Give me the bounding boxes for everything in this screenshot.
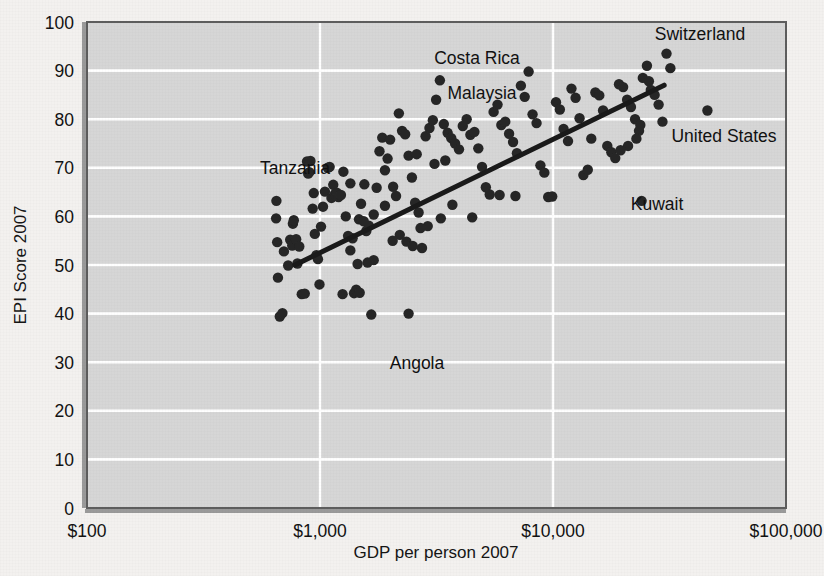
chart-page: 0102030405060708090100 $100$1,000$10,000…: [0, 0, 824, 576]
data-point: [440, 155, 450, 165]
x-axis-tick-labels: $100$1,000$10,000$100,000: [68, 521, 823, 541]
x-axis-title: GDP per person 2007: [353, 543, 518, 562]
data-point: [345, 245, 355, 255]
data-point: [566, 83, 576, 93]
data-point: [485, 189, 495, 199]
y-tick-label-20: 20: [55, 401, 75, 421]
annotation-malaysia: Malaysia: [447, 83, 516, 103]
data-point: [341, 211, 351, 221]
data-point: [531, 118, 541, 128]
data-point: [366, 309, 376, 319]
data-point: [387, 236, 397, 246]
data-point: [635, 120, 645, 130]
data-point: [702, 105, 712, 115]
data-point: [318, 201, 328, 211]
data-point: [539, 167, 549, 177]
data-point: [283, 260, 293, 270]
data-point: [338, 166, 348, 176]
data-point: [631, 133, 641, 143]
data-point: [665, 63, 675, 73]
y-tick-label-70: 70: [55, 158, 75, 178]
data-point: [469, 127, 479, 137]
data-point: [516, 80, 526, 90]
data-point: [362, 257, 372, 267]
data-point: [642, 61, 652, 71]
data-point: [371, 183, 381, 193]
data-point: [408, 241, 418, 251]
data-point: [500, 116, 510, 126]
data-point: [653, 99, 663, 109]
data-point: [583, 165, 593, 175]
data-point: [644, 76, 654, 86]
annotation-switzerland: Switzerland: [655, 24, 745, 44]
data-point: [354, 288, 364, 298]
annotation-costa-rica: Costa Rica: [434, 48, 520, 68]
data-point: [273, 272, 283, 282]
data-point: [385, 134, 395, 144]
data-point: [307, 203, 317, 213]
data-point: [300, 288, 310, 298]
y-tick-label-80: 80: [55, 110, 75, 130]
data-point: [380, 165, 390, 175]
data-point: [403, 308, 413, 318]
x-tick-label-1000: $1,000: [293, 521, 347, 541]
data-point: [411, 149, 421, 159]
data-point: [382, 153, 392, 163]
y-tick-label-30: 30: [55, 353, 75, 373]
data-point: [391, 191, 401, 201]
data-point: [289, 215, 299, 225]
y-axis-tick-labels: 0102030405060708090100: [45, 13, 74, 519]
data-point: [594, 90, 604, 100]
y-tick-label-60: 60: [55, 207, 75, 227]
x-tick-label-100000: $100,000: [750, 521, 823, 541]
data-point: [356, 199, 366, 209]
data-point: [510, 191, 520, 201]
data-point: [657, 116, 667, 126]
data-point: [407, 172, 417, 182]
data-point: [337, 289, 347, 299]
data-point: [359, 179, 369, 189]
data-point: [508, 137, 518, 147]
data-point: [436, 213, 446, 223]
data-point: [523, 66, 533, 76]
y-tick-label-50: 50: [55, 256, 75, 276]
data-point: [435, 75, 445, 85]
annotation-tanzania: Tanzania: [260, 158, 330, 178]
data-point: [336, 190, 346, 200]
data-point: [473, 143, 483, 153]
data-point: [316, 221, 326, 231]
data-point: [272, 237, 282, 247]
y-tick-label-100: 100: [45, 13, 74, 33]
data-point: [447, 200, 457, 210]
data-point: [368, 209, 378, 219]
data-point: [454, 144, 464, 154]
data-point: [394, 108, 404, 118]
y-tick-label-10: 10: [55, 450, 75, 470]
data-point: [345, 178, 355, 188]
data-point: [615, 145, 625, 155]
data-point: [586, 133, 596, 143]
data-point: [431, 95, 441, 105]
data-point: [388, 182, 398, 192]
data-point: [520, 92, 530, 102]
scatter-chart: 0102030405060708090100 $100$1,000$10,000…: [0, 0, 824, 576]
data-point: [547, 191, 557, 201]
data-point: [563, 136, 573, 146]
data-point: [661, 48, 671, 58]
data-point: [309, 188, 319, 198]
data-point: [352, 259, 362, 269]
y-tick-label-0: 0: [64, 499, 74, 519]
data-point: [467, 212, 477, 222]
data-point: [400, 129, 410, 139]
data-point: [415, 223, 425, 233]
y-tick-label-90: 90: [55, 61, 75, 81]
data-point: [380, 201, 390, 211]
data-point: [461, 114, 471, 124]
data-point: [428, 115, 438, 125]
data-point: [494, 190, 504, 200]
data-point: [429, 159, 439, 169]
data-point: [417, 243, 427, 253]
data-point: [374, 146, 384, 156]
data-point: [271, 213, 281, 223]
data-point: [570, 93, 580, 103]
